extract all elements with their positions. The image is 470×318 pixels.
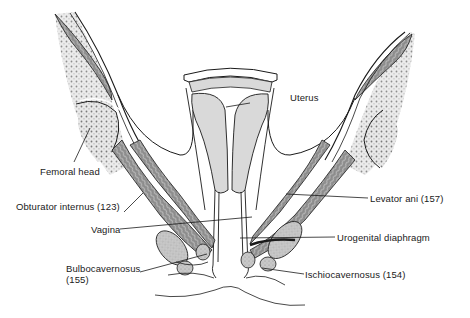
- right-pelvic-floor-muscles: [241, 140, 355, 271]
- label-ischiocavernosus: Ischiocavernosus (154): [305, 269, 405, 280]
- label-urogenital-diaphragm: Urogenital diaphragm: [337, 232, 430, 243]
- label-bulbocavernosus: Bulbocavernosus (155): [66, 263, 140, 285]
- label-obturator-internus: Obturator internus (123): [16, 201, 120, 212]
- uterus: [184, 68, 277, 210]
- left-pelvic-floor-muscles: [112, 140, 215, 275]
- right-pelvic-wall: [325, 32, 415, 175]
- leader-levator-ani: [286, 194, 368, 198]
- label-femoral-head: Femoral head: [40, 166, 100, 177]
- label-levator-ani: Levator ani (157): [370, 193, 444, 204]
- perineum-outline: [155, 273, 305, 305]
- leader-obturator-internus: [124, 193, 143, 212]
- label-vagina: Vagina: [91, 224, 120, 235]
- label-uterus: Uterus: [290, 92, 319, 103]
